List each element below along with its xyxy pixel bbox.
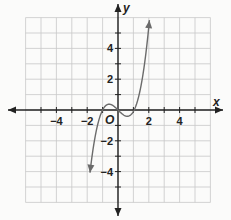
x-axis-arrow-left-icon: [8, 107, 16, 114]
y-axis-arrow-down-icon: [115, 208, 122, 216]
y-axis-arrow-up-icon: [115, 4, 122, 12]
x-tick-label: 2: [146, 115, 152, 127]
y-tick-label: −4: [100, 166, 113, 178]
x-tick-label: −2: [81, 115, 94, 127]
axes: [8, 4, 223, 216]
y-tick-label: −2: [100, 135, 113, 147]
y-axis-label: y: [122, 1, 131, 15]
origin-label: O: [105, 113, 115, 127]
x-axis-label: x: [212, 95, 221, 109]
y-tick-label: 2: [107, 73, 113, 85]
curve-arrowheads: [87, 20, 152, 172]
x-tick-label: −4: [50, 115, 63, 127]
cubic-function-graph: −4−22442−2−4 x y O: [0, 0, 231, 220]
x-tick-label: 4: [177, 115, 184, 127]
function-curve: [90, 20, 149, 172]
y-tick-label: 4: [107, 42, 114, 54]
